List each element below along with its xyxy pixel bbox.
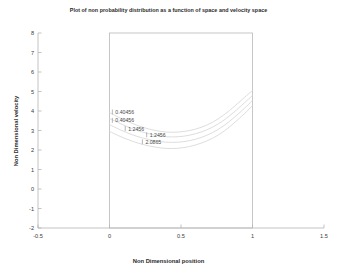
contour-value-label: 0.40456 [115,117,134,123]
contour-value-label: 0.40456 [115,109,134,115]
tick-marks [38,33,324,228]
contour-value-label: 1.2456 [150,132,166,138]
contour-value-label: 2.0865 [145,139,161,145]
x-tick-label: 1.5 [320,233,328,239]
x-tick-label: 0.5 [177,233,185,239]
x-tick-label: -0.5 [33,233,43,239]
plot-area [0,0,337,277]
y-axis-label: Non Dimensional velocity [13,71,19,191]
x-axis-label: Non Dimensional position [0,258,337,264]
y-tick-label: 8 [12,30,34,36]
chart-container: Plot of non probability distribution as … [0,0,337,277]
y-tick-label: -2 [12,225,34,231]
contour-value-label: 1.2456 [128,126,144,132]
y-tick-label: 7 [12,50,34,56]
axis-lines [38,33,324,228]
x-tick-label: 1 [251,233,254,239]
x-tick-label: 0 [108,233,111,239]
y-tick-label: -1 [12,206,34,212]
